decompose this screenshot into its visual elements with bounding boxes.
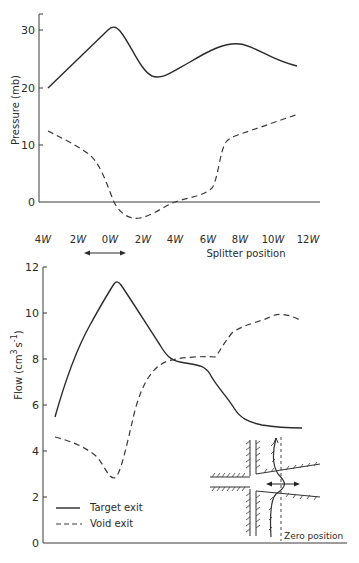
x-tick-label: 4W [167,234,184,245]
x-tick-label: 12W [297,234,321,245]
figure: 30 20 10 0 Pressure (mb) 4W 2W 0W 2W 4W … [0,0,359,563]
y-tick-label: 0 [32,537,39,550]
double-arrow-icon [84,251,126,256]
x-tick-label: 10W [262,234,286,245]
legend: Target exit Void exit [56,502,143,529]
double-arrow-icon [266,482,300,487]
flow-target-exit-line [55,282,302,428]
splitter-inset-diagram: Zero position [210,437,343,541]
y-tick-label: 12 [25,261,39,274]
x-tick-label: 6W [200,234,217,245]
pressure-y-label: Pressure (mb) [10,75,21,145]
x-tick-label: 2W [135,234,152,245]
pressure-chart: 30 20 10 0 Pressure (mb) [10,14,320,218]
y-tick-label: 0 [28,196,35,209]
x-axis-title: Splitter position [206,248,285,259]
y-tick-label: 8 [32,353,39,366]
y-tick-label: 6 [32,399,39,412]
x-tick-label: 4W [35,234,52,245]
splitter-position-axis: 4W 2W 0W 2W 4W 6W 8W 10W 12W Splitter po… [35,234,321,259]
y-tick-label: 2 [32,491,39,504]
y-tick-label: 10 [25,307,39,320]
y-tick-label: 20 [21,82,35,95]
legend-target-exit: Target exit [89,502,143,513]
pressure-void-exit-line [48,115,296,218]
flow-void-exit-line [55,314,300,478]
y-tick-label: 10 [21,139,35,152]
zero-position-label: Zero position [284,531,343,541]
x-tick-label: 8W [232,234,249,245]
y-tick-label: 30 [21,24,35,37]
flow-y-label: Flow (cm3s-1) [10,330,24,399]
pressure-target-exit-line [48,27,297,88]
x-tick-label: 0W [102,234,119,245]
flow-chart: 12 10 8 6 4 2 0 Flow (cm3s-1) Target exi… [10,261,347,550]
legend-void-exit: Void exit [90,518,133,529]
y-tick-label: 4 [32,445,39,458]
x-tick-label: 2W [70,234,87,245]
